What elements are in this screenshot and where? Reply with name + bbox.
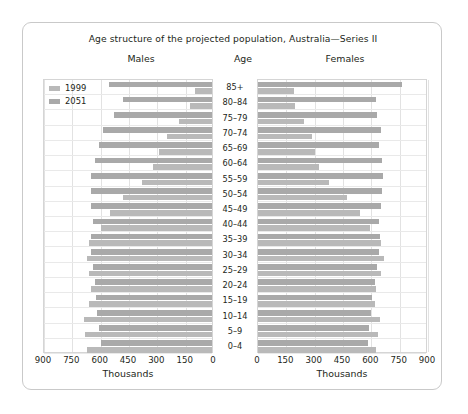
bar-2051 [93, 264, 212, 270]
bar-1999 [91, 286, 212, 292]
age-label: 25–29 [213, 265, 257, 275]
panel-header-females: Females [285, 53, 405, 64]
age-label: 45–49 [213, 204, 257, 214]
bar-row [44, 263, 212, 278]
row-separator [44, 353, 212, 354]
bar-2051 [258, 264, 377, 270]
bar-2051 [91, 234, 212, 240]
bar-1999 [87, 256, 212, 262]
bar-row [44, 156, 212, 171]
x-axis-ticks-females: 0150300450600750900 [257, 355, 427, 367]
age-label: 20–24 [213, 280, 257, 290]
bar-2051 [258, 127, 381, 133]
plot-area-females [257, 79, 427, 353]
age-label: 15–19 [213, 295, 257, 305]
x-tick-label: 0 [210, 355, 215, 365]
chart-legend: 1999 2051 [49, 83, 86, 109]
bar-2051 [258, 203, 381, 209]
bar-1999 [85, 332, 212, 338]
bar-row [44, 171, 212, 186]
bar-row [258, 202, 426, 217]
bar-row [258, 110, 426, 125]
bar-1999 [258, 271, 381, 277]
age-label: 65–69 [213, 143, 257, 153]
bar-row [44, 217, 212, 232]
bar-row [258, 217, 426, 232]
bar-row [44, 126, 212, 141]
bar-row [258, 263, 426, 278]
bar-1999 [89, 271, 212, 277]
plot-area-males [43, 79, 213, 353]
age-label: 35–39 [213, 234, 257, 244]
bar-row [258, 232, 426, 247]
legend-swatch-2051 [49, 99, 60, 104]
bar-1999 [167, 134, 212, 140]
x-tick-label: 450 [334, 355, 350, 365]
bar-2051 [99, 325, 212, 331]
bar-row [258, 126, 426, 141]
age-label: 40–44 [213, 219, 257, 229]
bar-1999 [258, 240, 381, 246]
bar-row [258, 171, 426, 186]
age-label: 85+ [213, 82, 257, 92]
bar-2051 [258, 219, 379, 225]
x-tick-label: 750 [63, 355, 79, 365]
bar-1999 [123, 195, 212, 201]
x-tick-label: 150 [176, 355, 192, 365]
bar-1999 [258, 103, 295, 109]
bar-row [44, 293, 212, 308]
bar-1999 [89, 240, 212, 246]
bar-row [258, 247, 426, 262]
bar-2051 [95, 158, 212, 164]
chart-title: Age structure of the projected populatio… [23, 33, 443, 44]
bar-row [44, 247, 212, 262]
bar-2051 [123, 97, 212, 103]
bar-1999 [258, 195, 347, 201]
legend-swatch-1999 [49, 86, 60, 91]
bar-row [44, 141, 212, 156]
legend-item-1999: 1999 [49, 83, 86, 94]
bar-row [258, 80, 426, 95]
bar-1999 [87, 347, 212, 353]
age-label: 60–64 [213, 158, 257, 168]
bar-2051 [91, 249, 212, 255]
bar-1999 [258, 286, 376, 292]
bar-1999 [258, 317, 380, 323]
age-label: 5–9 [213, 326, 257, 336]
bar-1999 [153, 164, 213, 170]
bar-2051 [91, 203, 212, 209]
bar-1999 [258, 332, 378, 338]
panel-header-males: Males [81, 53, 201, 64]
legend-item-2051: 2051 [49, 96, 86, 107]
bar-1999 [89, 301, 212, 307]
age-label: 75–79 [213, 113, 257, 123]
bar-2051 [109, 82, 212, 88]
bar-row [44, 308, 212, 323]
age-label: 0–4 [213, 341, 257, 351]
bar-2051 [258, 188, 382, 194]
x-tick-label: 0 [254, 355, 259, 365]
x-tick-label: 300 [148, 355, 164, 365]
bar-2051 [258, 340, 368, 346]
bar-1999 [258, 164, 319, 170]
chart-frame: Age structure of the projected populatio… [22, 22, 442, 390]
age-label: 10–14 [213, 311, 257, 321]
age-column-header: Age [213, 53, 273, 64]
bar-2051 [258, 295, 372, 301]
bar-1999 [258, 301, 375, 307]
bar-1999 [84, 317, 212, 323]
bar-1999 [258, 149, 315, 155]
x-axis-title-females: Thousands [257, 368, 427, 379]
bar-1999 [159, 149, 212, 155]
bar-2051 [258, 310, 371, 316]
bar-2051 [91, 173, 212, 179]
bar-2051 [97, 310, 212, 316]
bar-2051 [258, 158, 382, 164]
bar-2051 [258, 112, 377, 118]
bar-2051 [95, 279, 212, 285]
bar-row [258, 187, 426, 202]
bar-row [258, 141, 426, 156]
bar-2051 [258, 97, 376, 103]
bar-row [258, 95, 426, 110]
bar-row [258, 278, 426, 293]
